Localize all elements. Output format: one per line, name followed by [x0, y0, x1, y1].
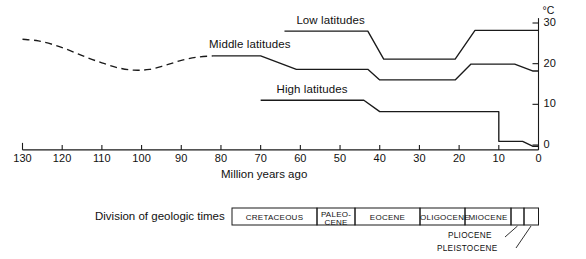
annotation-high-latitudes: High latitudes	[277, 84, 348, 96]
curve-high-latitudes	[261, 100, 539, 146]
y-axis-unit-label: °C	[543, 5, 555, 16]
callout-pliocene: PLIOCENE	[448, 232, 492, 240]
callout-pleistocene: PLEISTOCENE	[437, 245, 497, 253]
epoch-cell-label: PALEO-CENE	[317, 211, 355, 228]
curve-middle-latitudes-solid	[213, 56, 538, 80]
x-tick-label-80: 80	[211, 153, 231, 164]
epoch-cell-label: EOCENE	[355, 214, 420, 222]
y-axis-ticks	[533, 23, 539, 145]
annotation-middle-latitudes: Middle latitudes	[209, 39, 291, 51]
x-axis-ticks	[23, 143, 539, 150]
x-tick-label-110: 110	[92, 153, 112, 164]
x-tick-label-50: 50	[330, 153, 350, 164]
curve-middle-latitudes-dashed	[23, 39, 214, 70]
x-axis-title: Million years ago	[221, 169, 307, 181]
callout-leader-line	[505, 226, 518, 237]
x-tick-label-130: 130	[13, 153, 33, 164]
y-tick-label-0: 0	[544, 139, 550, 150]
callout-leader-line	[516, 226, 531, 248]
curve-low-latitudes	[284, 30, 538, 59]
y-tick-label-20: 20	[544, 58, 556, 69]
paleoclimate-temperature-figure: Middle latitudes Low latitudes High lati…	[0, 0, 586, 259]
epoch-callout-lines	[505, 226, 531, 248]
x-tick-label-60: 60	[290, 153, 310, 164]
x-tick-label-70: 70	[251, 153, 271, 164]
x-tick-label-0: 0	[529, 153, 549, 164]
geologic-times-title: Division of geologic times	[95, 211, 225, 223]
x-tick-label-90: 90	[171, 153, 191, 164]
y-tick-label-10: 10	[544, 98, 556, 109]
x-tick-label-40: 40	[370, 153, 390, 164]
epoch-cell-label: MIOCENE	[465, 214, 511, 222]
x-tick-label-10: 10	[489, 153, 509, 164]
epoch-cell-label: CRETACEOUS	[232, 214, 317, 222]
x-tick-label-120: 120	[52, 153, 72, 164]
annotation-low-latitudes: Low latitudes	[296, 15, 364, 27]
y-tick-label-30: 30	[544, 17, 556, 28]
x-tick-label-20: 20	[449, 153, 469, 164]
epoch-cell-label: OLIGOCENE	[420, 214, 465, 222]
x-tick-label-100: 100	[132, 153, 152, 164]
x-tick-label-30: 30	[409, 153, 429, 164]
